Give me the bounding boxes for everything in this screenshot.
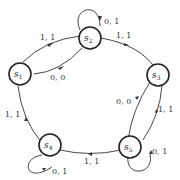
edge-label: 1, 1 [40,33,55,42]
arrow-head [88,152,92,156]
edge-label: 1, 1 [116,31,131,40]
state-s2: s2 [79,27,101,49]
edge-label: 0, 1 [104,17,119,26]
state-s1: s1 [9,63,31,85]
edge-label: 0, 1 [152,147,167,156]
edge-s5-s3: 0, 0 [116,82,150,140]
arrow-head [135,96,139,100]
edge-label: 1, 1 [5,110,20,119]
edge-s3-s5: 1, 1 [143,85,173,140]
edge-s2-s3: 1, 1 [101,31,155,68]
state-s3: s3 [147,64,169,86]
arrow-head [24,117,28,121]
state-s5: s5 [119,136,141,158]
edge-s5-s4: 1, 1 [60,150,121,166]
state-s4: s4 [39,134,61,156]
edge-label: 0, 0 [50,73,65,82]
arrow-head [47,43,53,47]
edge-s4-s1: 1, 1 [5,86,42,143]
state-diagram: 1, 1 0, 0 0, 1 1, 1 1, 1 0, 0 0, 1 1, 1 [0,0,180,180]
edge-s4-self: 0, 1 [28,155,67,176]
edge-s1-s2-bottom: 0, 0 [34,48,82,82]
edge-label: 1, 1 [84,157,99,166]
edge-label: 0, 0 [116,97,131,106]
edge-label: 1, 1 [158,105,173,114]
edge-label: 0, 1 [52,167,67,176]
edge-s2-self: 0, 1 [78,10,119,30]
